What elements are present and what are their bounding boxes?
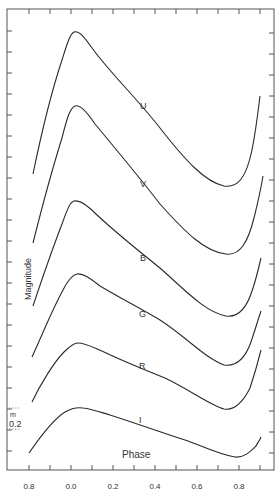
label-r: R xyxy=(139,361,146,371)
label-g: G xyxy=(139,309,146,319)
label-v: V xyxy=(140,179,146,189)
x-tick-label: 0.4 xyxy=(149,482,161,491)
x-tick-label: 0.0 xyxy=(65,482,77,491)
bottom-ticks xyxy=(29,465,260,470)
x-tick-label: 0.2 xyxy=(107,482,119,491)
x-tick-label: 0.8 xyxy=(23,482,35,491)
curve-b xyxy=(33,201,261,316)
curve-u xyxy=(33,32,260,187)
right-ticks xyxy=(269,33,274,453)
label-b: B xyxy=(140,253,146,263)
light-curve-chart: U V B G R I Phase Magnitude m 0.2 0.8 0.… xyxy=(0,0,280,496)
label-u: U xyxy=(140,101,147,111)
curve-g xyxy=(32,274,261,365)
x-tick-label: 0.6 xyxy=(191,482,203,491)
scale-unit: m xyxy=(10,411,16,418)
top-ticks xyxy=(29,9,260,14)
left-ticks xyxy=(7,31,12,451)
label-i: I xyxy=(139,415,142,425)
curve-r xyxy=(32,343,261,409)
scale-value: 0.2 xyxy=(9,419,22,429)
scale-marker: m 0.2 xyxy=(9,408,22,429)
x-axis-label: Phase xyxy=(122,449,151,460)
curve-v xyxy=(33,106,263,254)
x-tick-labels: 0.8 0.0 0.2 0.4 0.6 0.8 xyxy=(23,482,245,491)
plot-frame xyxy=(7,9,274,470)
y-axis-label: Magnitude xyxy=(23,258,33,300)
x-tick-label: 0.8 xyxy=(233,482,245,491)
